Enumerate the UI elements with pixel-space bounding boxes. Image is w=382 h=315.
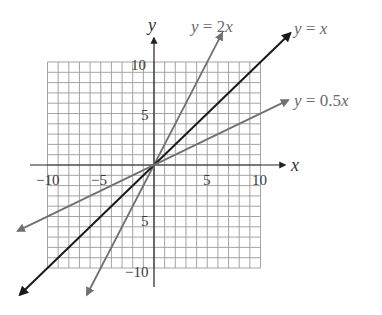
y-axis-label: y bbox=[146, 15, 156, 35]
x-axis-label: x bbox=[290, 155, 299, 175]
x-tick-label: 5 bbox=[203, 172, 211, 188]
x-tick-label: −5 bbox=[91, 172, 107, 188]
y-tick-label: −10 bbox=[125, 264, 148, 280]
x-tick-label: 10 bbox=[252, 172, 267, 188]
series-labels: y = 2xy = xy = 0.5x bbox=[189, 17, 349, 110]
series-label: y = 2x bbox=[189, 17, 233, 36]
chart: xy −10−55101055−10 y = 2xy = xy = 0.5x bbox=[0, 0, 382, 315]
x-tick-label: −10 bbox=[36, 172, 59, 188]
series-label: y = 0.5x bbox=[292, 91, 349, 110]
y-tick-label: 5 bbox=[141, 213, 149, 229]
series-label: y = x bbox=[292, 19, 328, 38]
y-tick-label: 10 bbox=[131, 57, 146, 73]
chart-canvas: xy −10−55101055−10 y = 2xy = xy = 0.5x bbox=[0, 0, 382, 315]
y-tick-label: 5 bbox=[141, 107, 149, 123]
